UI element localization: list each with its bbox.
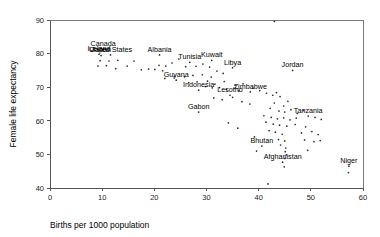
scatter-chart: 4050607080900102030405060 CanadaIcelandJ… bbox=[0, 0, 380, 237]
data-point bbox=[278, 110, 280, 112]
data-point bbox=[268, 130, 270, 132]
y-tick-label: 40 bbox=[36, 184, 44, 193]
data-point bbox=[294, 124, 296, 126]
plot-area: 4050607080900102030405060 CanadaIcelandJ… bbox=[0, 0, 380, 237]
data-point bbox=[228, 122, 230, 124]
point-label: Jordan bbox=[282, 60, 304, 69]
data-point bbox=[272, 94, 274, 96]
point-label: Tunisia bbox=[178, 52, 201, 61]
data-point bbox=[267, 183, 269, 185]
point-label: Niger bbox=[340, 156, 358, 165]
data-point bbox=[289, 119, 291, 121]
x-tick-label: 20 bbox=[150, 193, 158, 202]
data-point bbox=[265, 121, 267, 123]
data-point bbox=[97, 65, 99, 67]
data-point bbox=[232, 96, 234, 98]
data-point bbox=[249, 91, 251, 93]
data-point bbox=[100, 55, 102, 57]
data-point bbox=[320, 119, 322, 121]
data-point bbox=[279, 96, 281, 98]
data-point bbox=[209, 66, 211, 68]
data-point bbox=[272, 123, 274, 125]
data-point bbox=[292, 70, 294, 72]
data-point bbox=[133, 60, 135, 62]
point-label: Libya bbox=[224, 58, 241, 67]
data-point bbox=[283, 117, 285, 119]
data-point bbox=[105, 65, 107, 67]
data-point bbox=[223, 81, 225, 83]
point-label: Kuwait bbox=[201, 50, 223, 59]
data-point bbox=[277, 118, 279, 120]
data-point bbox=[307, 115, 309, 117]
data-point bbox=[283, 105, 285, 107]
data-point bbox=[284, 111, 286, 113]
data-point bbox=[317, 134, 319, 136]
data-point bbox=[348, 172, 350, 174]
data-point bbox=[249, 103, 251, 105]
x-tick-label: 0 bbox=[48, 193, 52, 202]
data-point bbox=[266, 92, 268, 94]
data-point bbox=[171, 62, 173, 64]
data-point bbox=[148, 68, 150, 70]
data-point bbox=[189, 61, 191, 63]
data-point bbox=[270, 117, 272, 119]
data-point bbox=[280, 144, 282, 146]
data-point bbox=[256, 150, 258, 152]
y-tick-label: 50 bbox=[36, 150, 44, 159]
data-point bbox=[237, 127, 239, 129]
data-point bbox=[241, 101, 243, 103]
data-point bbox=[282, 161, 284, 163]
data-point bbox=[126, 65, 128, 67]
x-tick-label: 10 bbox=[98, 193, 106, 202]
data-point bbox=[201, 74, 203, 76]
x-tick-label: 60 bbox=[359, 193, 367, 202]
data-point bbox=[211, 59, 213, 61]
point-label: Guyana bbox=[164, 70, 189, 79]
data-point bbox=[273, 102, 275, 104]
data-point bbox=[286, 125, 288, 127]
data-point bbox=[165, 65, 167, 67]
data-point bbox=[117, 59, 119, 61]
data-point bbox=[307, 150, 309, 152]
data-point bbox=[185, 66, 187, 68]
data-point bbox=[279, 124, 281, 126]
data-point bbox=[115, 68, 117, 70]
y-tick-label: 80 bbox=[36, 49, 44, 58]
data-point bbox=[263, 115, 265, 117]
data-point bbox=[281, 133, 283, 135]
data-point bbox=[269, 108, 271, 110]
x-axis-title: Births per 1000 population bbox=[50, 220, 150, 230]
data-point bbox=[276, 92, 278, 94]
data-points bbox=[97, 20, 350, 184]
point-labels: CanadaIcelandJapanUnited StatesAlbaniaTu… bbox=[87, 39, 358, 165]
data-point bbox=[295, 117, 297, 119]
point-label: Indonesia bbox=[183, 80, 214, 89]
data-point bbox=[301, 132, 303, 134]
data-point bbox=[159, 54, 161, 56]
point-label: Afghanistan bbox=[264, 152, 302, 161]
data-point bbox=[140, 69, 142, 71]
data-point bbox=[154, 69, 156, 71]
data-point bbox=[283, 166, 285, 168]
data-point bbox=[158, 65, 160, 67]
point-label: Gabon bbox=[188, 102, 210, 111]
data-point bbox=[213, 97, 215, 99]
data-point bbox=[273, 20, 275, 22]
data-point bbox=[202, 63, 204, 65]
data-point bbox=[285, 147, 287, 149]
data-point bbox=[175, 79, 177, 81]
data-point bbox=[198, 111, 200, 113]
data-point bbox=[222, 73, 224, 75]
point-label: Zimbabwe bbox=[234, 82, 267, 91]
data-point bbox=[275, 131, 277, 133]
data-point bbox=[314, 117, 316, 119]
data-point bbox=[192, 75, 194, 77]
data-point bbox=[99, 60, 101, 62]
data-point bbox=[216, 70, 218, 72]
data-point bbox=[232, 67, 234, 69]
x-tick-label: 50 bbox=[307, 193, 315, 202]
data-point bbox=[221, 99, 223, 101]
point-label: United States bbox=[89, 45, 133, 54]
data-point bbox=[290, 109, 292, 111]
data-point bbox=[313, 141, 315, 143]
